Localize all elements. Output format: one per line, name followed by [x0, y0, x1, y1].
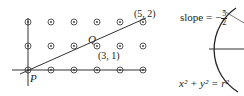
- lattice-point-dot: [73, 45, 75, 47]
- lattice-point-dot: [96, 21, 98, 23]
- lattice-point-dot: [142, 45, 144, 47]
- label-p: P: [30, 73, 37, 84]
- lattice-point-dot: [119, 21, 121, 23]
- label-point-3-1: (3, 1): [98, 51, 120, 61]
- slope-fraction: 52: [221, 10, 227, 27]
- slope-denominator: 2: [221, 19, 227, 27]
- lattice-point-dot: [142, 21, 144, 23]
- line-pq: [20, 18, 146, 74]
- circle-equation: x² + y² = r²: [179, 78, 229, 89]
- lattice-point-dot: [50, 45, 52, 47]
- label-point-5-2: (5, 2): [134, 9, 156, 19]
- slope-label: slope = −52: [180, 10, 227, 27]
- slope-prefix: slope = −: [180, 11, 221, 23]
- lattice-point-dot: [96, 45, 98, 47]
- lattice-point-dot: [73, 21, 75, 23]
- lattice-grid: [25, 19, 146, 73]
- lattice-point-dot: [50, 21, 52, 23]
- lattice-point-dot: [119, 45, 121, 47]
- label-q: Q: [88, 34, 96, 45]
